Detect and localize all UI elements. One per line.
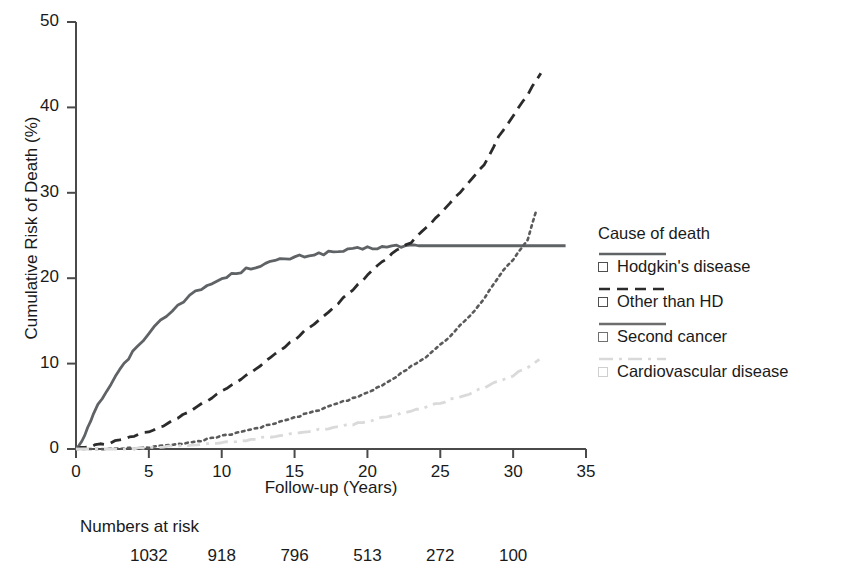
- numbers-at-risk-label: Numbers at risk: [80, 517, 199, 537]
- numbers-at-risk-value: 100: [483, 546, 543, 566]
- data-series-layer: [76, 73, 566, 449]
- legend-entry[interactable]: Other than HD: [596, 280, 851, 311]
- legend-entries: Hodgkin's diseaseOther than HDSecond can…: [596, 245, 851, 381]
- legend-marker-box[interactable]: [598, 367, 608, 377]
- x-tick-label: 30: [493, 462, 533, 482]
- numbers-at-risk-value: 918: [192, 546, 252, 566]
- legend-entry-label: Other than HD: [617, 292, 723, 311]
- legend-entry[interactable]: Second cancer: [596, 315, 851, 346]
- series-line: [76, 245, 566, 449]
- legend-marker-box[interactable]: [598, 332, 608, 342]
- legend-entry[interactable]: Cardiovascular disease: [596, 350, 851, 381]
- legend-entry-label: Cardiovascular disease: [617, 362, 789, 381]
- legend-marker-box[interactable]: [598, 262, 608, 272]
- legend-line-sample: [598, 280, 668, 291]
- y-axis-label: Cumulative Risk of Death (%): [22, 78, 42, 378]
- x-axis-ticks: [76, 449, 586, 458]
- y-tick-label: 0: [19, 438, 59, 458]
- x-tick-label: 25: [420, 462, 460, 482]
- numbers-at-risk-value: 796: [265, 546, 325, 566]
- numbers-at-risk-value: 513: [337, 546, 397, 566]
- x-tick-label: 15: [275, 462, 315, 482]
- x-tick-label: 20: [347, 462, 387, 482]
- y-tick-label: 10: [19, 353, 59, 373]
- y-tick-label: 40: [19, 96, 59, 116]
- x-tick-label: 10: [202, 462, 242, 482]
- x-tick-label: 0: [56, 462, 96, 482]
- numbers-at-risk-value: 1032: [119, 546, 179, 566]
- y-tick-label: 20: [19, 267, 59, 287]
- chart-legend: Cause of death Hodgkin's diseaseOther th…: [596, 224, 851, 385]
- legend-marker-box[interactable]: [598, 297, 608, 307]
- y-tick-label: 50: [19, 11, 59, 31]
- series-line: [76, 359, 539, 449]
- legend-entry-label: Hodgkin's disease: [617, 257, 750, 276]
- legend-line-sample: [598, 245, 668, 256]
- legend-line-sample: [598, 350, 668, 361]
- legend-entry[interactable]: Hodgkin's disease: [596, 245, 851, 276]
- x-tick-label: 35: [566, 462, 606, 482]
- y-axis-ticks: [67, 22, 76, 449]
- legend-line-sample: [598, 315, 668, 326]
- legend-title: Cause of death: [598, 224, 851, 243]
- y-tick-label: 30: [19, 182, 59, 202]
- numbers-at-risk-value: 272: [410, 546, 470, 566]
- x-tick-label: 5: [129, 462, 169, 482]
- chart-figure: Cumulative Risk of Death (%) Follow-up (…: [0, 0, 857, 588]
- legend-entry-label: Second cancer: [617, 327, 727, 346]
